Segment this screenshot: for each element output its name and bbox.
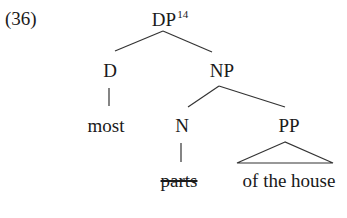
- edge-np-pp: [219, 86, 285, 107]
- terminal-parts-deleted: parts: [161, 171, 198, 190]
- terminal-most: most: [88, 116, 125, 135]
- pp-triangle: [237, 142, 333, 163]
- edge-dp-np: [163, 31, 212, 52]
- node-d: D: [103, 61, 117, 80]
- node-dp-label: DP: [152, 9, 176, 30]
- node-pp: PP: [278, 116, 299, 135]
- edge-dp-d: [115, 31, 163, 51]
- node-np: NP: [210, 61, 234, 80]
- node-n: N: [175, 116, 189, 135]
- edge-np-n: [188, 86, 219, 107]
- terminal-of-the-house: of the house: [243, 171, 336, 190]
- node-dp: DP14: [152, 10, 188, 32]
- node-dp-superscript: 14: [177, 8, 188, 20]
